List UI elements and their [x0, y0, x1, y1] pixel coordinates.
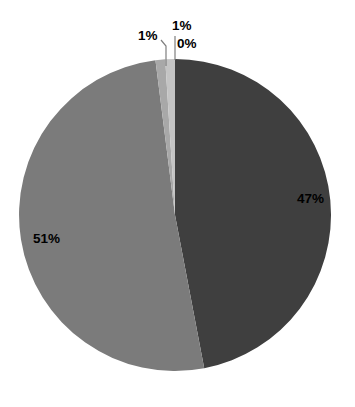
slice-label-51: 51% — [33, 232, 60, 246]
slice-label-0: 0% — [177, 37, 197, 51]
pie-chart: 47% 51% 1% 1% 0% — [0, 0, 355, 407]
pie-slice-1[interactable] — [175, 59, 331, 368]
slice-label-1-left: 1% — [138, 29, 158, 43]
slice-label-47: 47% — [297, 192, 324, 206]
slice-label-1-top: 1% — [172, 19, 192, 33]
